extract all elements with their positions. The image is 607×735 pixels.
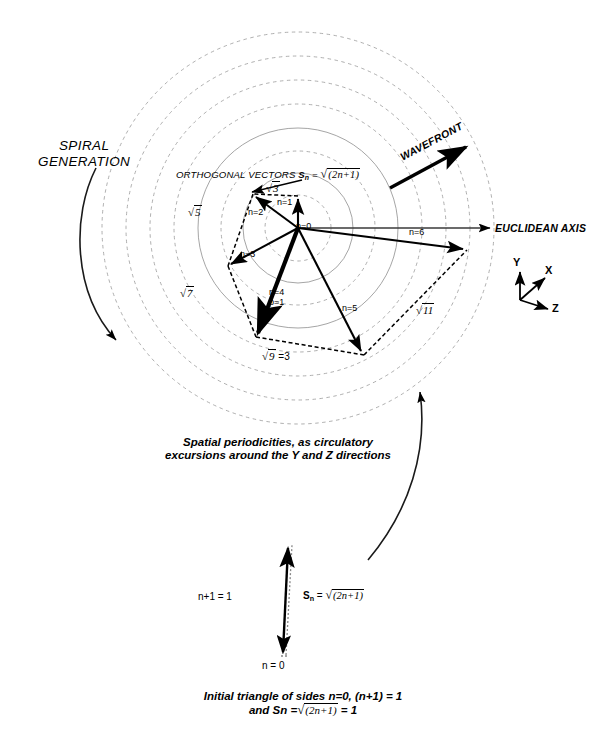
initial-caption-suffix: = 1 [338,704,358,716]
euclidean-axis-label: EUCLIDEAN AXIS [495,222,586,234]
spiral-generation-arrow [80,168,116,340]
initial-caption-expression: (2n+1) [304,703,337,716]
sqrt11-radicand: 11 [422,303,434,316]
spiral-generation-line1: SPIRAL [38,138,130,154]
label-n0: n=0 [296,221,311,231]
triangle-base-label: n = 0 [262,660,285,672]
spatial-caption-line2: excursions around the Y and Z directions [133,449,423,462]
label-p1: p=1 [269,297,284,307]
initial-triangle-caption: Initial triangle of sides n=0, (n+1) = 1… [108,690,498,718]
spiral-generation-label: SPIRAL GENERATION [38,138,130,169]
triangle-side-label: n+1 = 1 [198,591,232,603]
triangle-hyp-symbol: S [303,590,310,601]
orthogonal-caption-expression: (2n+1) [327,168,360,180]
label-n2: n=2 [248,207,263,217]
triad-axis-x [520,278,545,300]
orthogonal-caption-equals: = [309,169,320,180]
diagram-svg [0,0,607,735]
triad-label-y: Y [513,256,520,269]
chord-sqrt7 [228,266,256,337]
triad-axis-z [520,300,548,309]
label-sqrt7: √7 [180,287,194,300]
sqrt9-radicand: 9 [268,349,276,362]
vector-n4 [258,228,298,333]
chord-sqrt11 [364,250,467,355]
sqrt9-suffix: =3 [276,351,290,362]
vector-n5 [298,228,361,351]
label-n3: n=3 [240,249,255,259]
triad-label-z: Z [552,302,559,315]
sqrt7-radicand: 7 [186,286,194,299]
axis-triad [520,272,548,309]
figure-canvas: SPIRAL GENERATION ORTHOGONAL VECTORS Sn … [0,0,607,735]
initial-triangle [281,545,292,656]
spatial-periodicities-caption: Spatial periodicities, as circulatory ex… [133,436,423,462]
initial-caption-line2: and Sn =√(2n+1) = 1 [108,703,498,718]
spatial-caption-line1: Spatial periodicities, as circulatory [133,436,423,449]
label-sqrt11: √11 [416,304,434,317]
circulatory-arrow [368,392,422,560]
label-n1: n=1 [277,197,292,207]
label-n5: n=5 [342,303,357,313]
spiral-generation-line2: GENERATION [38,154,130,170]
triad-label-x: X [545,264,552,277]
sqrt3-radicand: 3 [272,181,280,194]
label-n4: n=4 [269,287,284,297]
triangle-hypotenuse-label: Sn = √(2n+1) [303,589,364,603]
label-sqrt5: √5 [188,206,202,219]
sqrt5-radicand: 5 [194,205,202,218]
orthogonal-vectors [231,197,463,351]
label-n6: n=6 [409,227,424,237]
vector-n6 [298,228,463,249]
triangle-hyp-equals: = [314,590,325,601]
triangle-side-vector [283,548,288,652]
triangle-hyp-expression: (2n+1) [332,589,364,601]
label-sqrt9: √9 =3 [262,350,290,363]
initial-caption-prefix: and Sn = [249,704,297,716]
chord-lines [228,194,467,355]
label-sqrt3: √3 [266,182,280,195]
